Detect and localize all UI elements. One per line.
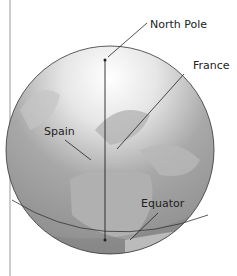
globe-diagram (0, 0, 237, 276)
spain-label: Spain (44, 126, 75, 137)
north-pole-label: North Pole (150, 19, 207, 30)
equator-label: Equator (141, 198, 184, 209)
france-label: France (193, 60, 230, 71)
globe (6, 46, 214, 276)
